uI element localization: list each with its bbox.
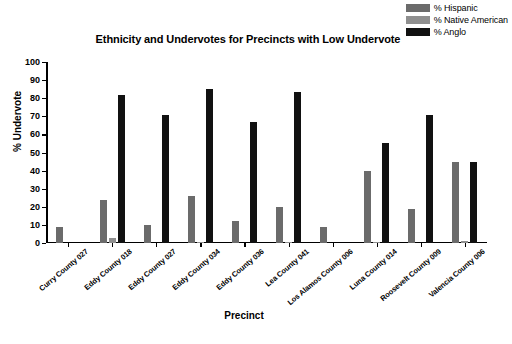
legend-swatch-hispanic [406,4,430,12]
chart-legend: % Hispanic % Native American % Anglo [406,3,508,37]
bar-chart: % Hispanic % Native American % Anglo Eth… [0,0,512,344]
y-tick-label: 70 [30,112,40,121]
y-tick-label: 10 [30,221,40,230]
y-axis-label: % Undervote [12,91,23,152]
bar [206,89,213,243]
x-category-label-text: Luna County 014 [322,247,398,313]
bar [320,227,327,243]
x-category-label-text: Eddy County 027 [102,247,178,313]
x-category-label-text: Eddy County 034 [146,247,222,313]
bar [232,221,239,243]
bar [188,196,195,243]
plot-area: 1009080706050403020100 [46,62,487,243]
x-category-label-text: Eddy County 018 [58,247,134,313]
x-category-label-text: Roosevelt County 009 [366,247,442,313]
bar-groups [46,62,487,243]
bar-group [266,62,310,243]
y-tick-label: 80 [30,94,40,103]
bar-group [46,62,90,243]
bar [470,162,477,243]
bar-group [134,62,178,243]
bar [144,225,151,243]
bar-group [311,62,355,243]
y-tick-label: 20 [30,203,40,212]
bar [364,171,371,243]
x-category-label-text: Valencia County 006 [410,247,486,313]
x-axis-category-labels: Curry County 027Eddy County 018Eddy Coun… [46,247,487,307]
y-tick-label: 60 [30,130,40,139]
legend-item-hispanic: % Hispanic [406,3,478,13]
bar-group [355,62,399,243]
bar [162,115,169,244]
x-category-label-text: Los Alamos County 006 [278,247,354,313]
bar [382,143,389,243]
bar-group [222,62,266,243]
bar [100,200,107,243]
y-tick-label: 0 [35,239,40,248]
x-axis-label: Precinct [0,310,512,321]
bar [56,227,63,243]
y-tick-label: 30 [30,185,40,194]
bar [452,162,459,243]
y-tick-label: 50 [30,149,40,158]
legend-item-native-american: % Native American [406,15,508,25]
legend-label-native-american: % Native American [434,16,508,25]
bar [276,207,283,243]
legend-label-hispanic: % Hispanic [434,4,478,13]
bar [118,95,125,243]
bar-group [443,62,487,243]
x-category-label-text: Eddy County 036 [190,247,266,313]
bar-group [399,62,443,243]
y-tick [42,243,46,244]
legend-swatch-native-american [406,16,430,24]
x-category-label-text: Lea County 041 [234,247,310,313]
bar [426,115,433,244]
bar [408,209,415,243]
bar-group [90,62,134,243]
bar-group [178,62,222,243]
y-tick-label: 40 [30,167,40,176]
x-category-label-text: Curry County 027 [14,247,90,313]
y-tick-label: 100 [25,58,40,67]
chart-title: Ethnicity and Undervotes for Precincts w… [0,33,512,45]
bar [250,122,257,243]
y-tick-label: 90 [30,76,40,85]
bar [294,92,301,243]
